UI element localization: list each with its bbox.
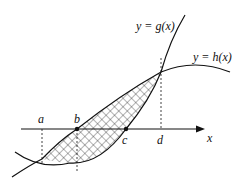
label-x-axis: x — [207, 132, 212, 144]
label-g: y = g(x) — [136, 20, 175, 32]
point-c — [124, 127, 128, 131]
shaded-region — [42, 72, 161, 163]
label-c: c — [122, 134, 127, 146]
point-b — [75, 127, 79, 131]
x-axis-arrow-icon — [196, 126, 205, 133]
diagram-canvas — [0, 0, 248, 187]
label-d: d — [157, 134, 163, 146]
label-a: a — [38, 113, 44, 125]
label-h: y = h(x) — [193, 51, 232, 63]
label-b: b — [74, 113, 80, 125]
diagram: y = g(x) y = h(x) a b c d x — [0, 0, 248, 187]
